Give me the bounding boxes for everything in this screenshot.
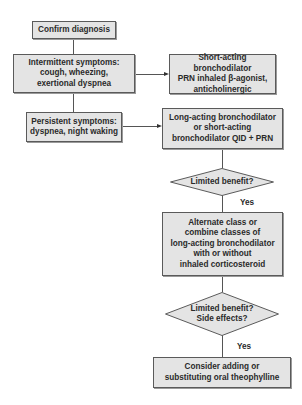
connector-decision2-theophylline: [222, 335, 223, 357]
connector-confirm-intermittent: [73, 38, 74, 54]
node-consider-theophylline: Consider adding or substituting oral the…: [153, 357, 291, 388]
decision-limited-benefit: Limited benefit?: [170, 168, 274, 196]
decision-limited-benefit-side-effects-text: Limited benefit? Side effects?: [165, 292, 279, 336]
decision-limited-benefit-side-effects: Limited benefit? Side effects?: [165, 292, 279, 336]
decision-limited-benefit-text: Limited benefit?: [170, 168, 274, 196]
edge-label-yes-1: Yes: [240, 198, 254, 207]
node-confirm-diagnosis: Confirm diagnosis: [32, 21, 116, 39]
connector-alternate-decision2: [222, 275, 223, 292]
node-intermittent-symptoms: Intermittent symptoms: cough, wheezing, …: [13, 54, 135, 93]
connector-intermittent-shortacting: [134, 74, 165, 75]
connector-decision1-alternate: [222, 195, 223, 212]
connector-longacting-decision1: [222, 148, 223, 168]
connector-intermittent-persistent: [73, 92, 74, 112]
node-persistent-symptoms: Persistent symptoms: dyspnea, night waki…: [26, 112, 122, 142]
node-short-acting-bronchodilator: Short-acting bronchodilator PRN inhaled …: [169, 54, 276, 94]
node-alternate-class: Alternate class or combine classes of lo…: [162, 212, 283, 276]
edge-label-yes-2: Yes: [237, 342, 251, 351]
node-long-acting-bronchodilator: Long-acting bronchodilator or short-acti…: [162, 108, 283, 149]
connector-persistent-longacting: [121, 126, 158, 127]
